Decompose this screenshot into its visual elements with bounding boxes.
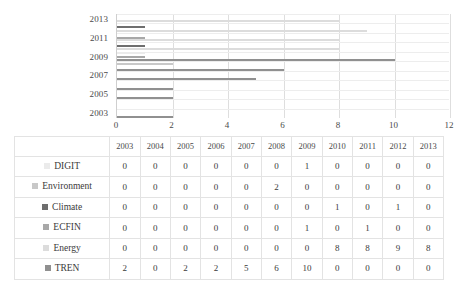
cell-tren-2005: 2 — [170, 259, 200, 279]
cell-energy-2011: 8 — [352, 238, 382, 258]
bar-climate-2012 — [117, 26, 145, 28]
y-tick-label-2005: 2005 — [90, 90, 108, 99]
gridline-x-12 — [450, 14, 451, 118]
category-separator-2012 — [117, 23, 449, 24]
bar-environment-2008 — [117, 63, 173, 65]
cell-energy-2010: 8 — [322, 238, 352, 258]
legend-swatch-icon-tren — [45, 265, 51, 271]
series-label: TREN — [55, 264, 80, 274]
table-row: Climate00000001010 — [15, 197, 444, 217]
cell-tren-2013: 0 — [413, 259, 443, 279]
plot-area — [116, 14, 449, 118]
cell-climate-2005: 0 — [170, 197, 200, 217]
bar-tren-2009 — [117, 59, 395, 61]
cell-climate-2012: 1 — [383, 197, 413, 217]
series-name-cell-climate: Climate — [15, 197, 110, 217]
cell-environment-2003: 0 — [110, 177, 140, 197]
cell-environment-2012: 0 — [383, 177, 413, 197]
bar-climate-2010 — [117, 45, 145, 47]
column-header-2013: 2013 — [413, 137, 443, 157]
column-header-2012: 2012 — [383, 137, 413, 157]
legend-swatch-icon-energy — [43, 245, 49, 251]
table-row: DIGIT00000010000 — [15, 157, 444, 177]
bar-tren-2008 — [117, 69, 284, 71]
cell-climate-2004: 0 — [140, 197, 170, 217]
column-header-2010: 2010 — [322, 137, 352, 157]
table-header: 2003200420052006200720082009201020112012… — [15, 137, 444, 157]
cell-environment-2010: 0 — [322, 177, 352, 197]
table-row: Environment00000200000 — [15, 177, 444, 197]
cell-environment-2004: 0 — [140, 177, 170, 197]
category-separator-2011 — [117, 33, 449, 34]
legend-swatch-icon-digit — [44, 163, 50, 169]
cell-tren-2009: 10 — [292, 259, 322, 279]
category-separator-2003 — [117, 109, 449, 110]
cell-energy-2009: 0 — [292, 238, 322, 258]
x-tick-label-10: 10 — [389, 120, 398, 130]
column-header-2005: 2005 — [170, 137, 200, 157]
x-tick-label-0: 0 — [114, 120, 119, 130]
series-label: Environment — [42, 182, 92, 192]
cell-tren-2011: 0 — [352, 259, 382, 279]
cell-ecfin-2011: 1 — [352, 218, 382, 238]
cell-energy-2007: 0 — [231, 238, 261, 258]
bar-digit-2009 — [117, 52, 145, 54]
x-tick-label-4: 4 — [225, 120, 230, 130]
bar-energy-2013 — [117, 20, 339, 22]
y-tick-label-2007: 2007 — [90, 71, 108, 80]
cell-tren-2003: 2 — [110, 259, 140, 279]
cell-ecfin-2003: 0 — [110, 218, 140, 238]
bar-energy-2012 — [117, 30, 367, 32]
cell-climate-2008: 0 — [261, 197, 291, 217]
cell-energy-2006: 0 — [201, 238, 231, 258]
cell-digit-2012: 0 — [383, 157, 413, 177]
cell-environment-2009: 0 — [292, 177, 322, 197]
table-corner-cell — [15, 137, 110, 157]
cell-ecfin-2008: 0 — [261, 218, 291, 238]
cell-climate-2009: 0 — [292, 197, 322, 217]
column-header-2008: 2008 — [261, 137, 291, 157]
x-tick-label-2: 2 — [169, 120, 174, 130]
x-tick-label-6: 6 — [280, 120, 285, 130]
column-header-2009: 2009 — [292, 137, 322, 157]
cell-ecfin-2010: 0 — [322, 218, 352, 238]
cell-ecfin-2012: 0 — [383, 218, 413, 238]
category-separator-2013 — [117, 14, 449, 15]
bar-tren-2007 — [117, 78, 256, 80]
bar-chart: 201320112009200720052003 024681012 — [0, 0, 459, 132]
cell-environment-2013: 0 — [413, 177, 443, 197]
category-separator-2010 — [117, 42, 449, 43]
gridline-x-10 — [395, 14, 396, 118]
cell-energy-2004: 0 — [140, 238, 170, 258]
table-header-row: 2003200420052006200720082009201020112012… — [15, 137, 444, 157]
table-row: TREN202256100000 — [15, 259, 444, 279]
column-header-2006: 2006 — [201, 137, 231, 157]
y-tick-label-2013: 2013 — [90, 14, 108, 23]
cell-ecfin-2013: 0 — [413, 218, 443, 238]
table-row: ECFIN00000010100 — [15, 218, 444, 238]
column-header-2004: 2004 — [140, 137, 170, 157]
cell-climate-2011: 0 — [352, 197, 382, 217]
cell-ecfin-2007: 0 — [231, 218, 261, 238]
legend-swatch-icon-climate — [42, 204, 48, 210]
column-header-2003: 2003 — [110, 137, 140, 157]
table-body: DIGIT00000010000Environment00000200000Cl… — [15, 157, 444, 280]
cell-digit-2011: 0 — [352, 157, 382, 177]
cell-tren-2012: 0 — [383, 259, 413, 279]
cell-energy-2003: 0 — [110, 238, 140, 258]
cell-tren-2006: 2 — [201, 259, 231, 279]
cell-environment-2006: 0 — [201, 177, 231, 197]
cell-tren-2004: 0 — [140, 259, 170, 279]
cell-climate-2013: 0 — [413, 197, 443, 217]
cell-tren-2007: 5 — [231, 259, 261, 279]
cell-climate-2003: 0 — [110, 197, 140, 217]
series-label: ECFIN — [53, 223, 80, 233]
cell-tren-2008: 6 — [261, 259, 291, 279]
cell-energy-2008: 0 — [261, 238, 291, 258]
x-tick-label-12: 12 — [445, 120, 454, 130]
data-table: 2003200420052006200720082009201020112012… — [14, 136, 444, 280]
series-name-cell-ecfin: ECFIN — [15, 218, 110, 238]
cell-environment-2007: 0 — [231, 177, 261, 197]
cell-climate-2007: 0 — [231, 197, 261, 217]
cell-energy-2005: 0 — [170, 238, 200, 258]
